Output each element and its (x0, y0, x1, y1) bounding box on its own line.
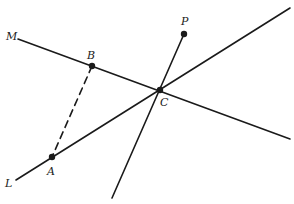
line-M (18, 39, 290, 139)
label-P: P (180, 15, 189, 28)
point-B-dot (89, 63, 95, 69)
segment-BA (52, 66, 92, 157)
labels-layer: M B C P A L (4, 15, 189, 190)
point-A-dot (49, 154, 55, 160)
label-M: M (5, 30, 18, 43)
line-PC (112, 34, 184, 198)
label-L: L (4, 177, 12, 190)
point-P-dot (181, 31, 187, 37)
label-B: B (86, 49, 95, 62)
geometry-diagram: M B C P A L (0, 0, 294, 204)
label-C: C (160, 96, 169, 109)
label-A: A (46, 165, 55, 178)
point-C-dot (157, 87, 163, 93)
line-L (16, 8, 290, 180)
lines-layer (16, 8, 290, 198)
diagram-svg: M B C P A L (0, 0, 294, 204)
